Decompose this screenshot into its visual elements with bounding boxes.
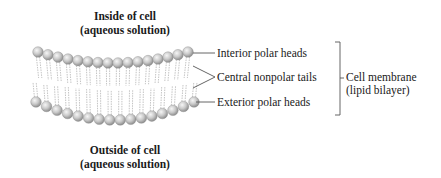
polar-head-icon xyxy=(113,58,124,69)
polar-head-icon xyxy=(147,111,158,122)
polar-head-icon xyxy=(153,54,164,65)
polar-head-icon xyxy=(73,111,84,122)
polar-head-icon xyxy=(143,55,154,66)
membrane-bracket xyxy=(335,42,340,115)
polar-head-icon xyxy=(136,113,147,124)
polar-head-icon xyxy=(53,52,64,63)
polar-head-icon xyxy=(31,97,42,108)
central-nonpolar-tails-label: Central nonpolar tails xyxy=(217,71,317,84)
polar-head-icon xyxy=(104,115,115,126)
polar-head-icon xyxy=(168,105,179,116)
polar-head-icon xyxy=(178,101,189,112)
interior-polar-heads-label: Interior polar heads xyxy=(217,47,307,60)
polar-head-icon xyxy=(163,52,174,63)
polar-head-icon xyxy=(43,49,54,60)
polar-head-icon xyxy=(126,114,137,125)
inside-cell-label: Inside of cell (aqueous solution) xyxy=(70,9,180,37)
inside-cell-title: Inside of cell xyxy=(70,9,180,23)
outside-cell-title: Outside of cell xyxy=(70,143,180,157)
polar-head-icon xyxy=(133,56,144,67)
polar-head-icon xyxy=(62,108,73,119)
central-tails-leader xyxy=(193,66,215,88)
polar-head-icon xyxy=(83,56,94,67)
cell-membrane-subtitle: (lipid bilayer) xyxy=(346,84,417,97)
polar-head-icon xyxy=(157,108,168,119)
outside-cell-subtitle: (aqueous solution) xyxy=(70,157,180,171)
polar-head-icon xyxy=(94,114,105,125)
exterior-polar-heads-label: Exterior polar heads xyxy=(217,96,310,109)
polar-head-icon xyxy=(83,113,94,124)
bilayer-group xyxy=(31,47,200,126)
cell-membrane-title: Cell membrane xyxy=(346,71,417,84)
polar-head-icon xyxy=(52,105,63,116)
inside-cell-subtitle: (aqueous solution) xyxy=(70,23,180,37)
polar-head-icon xyxy=(41,101,52,112)
exterior-polar-heads xyxy=(31,97,200,126)
cell-membrane-label: Cell membrane (lipid bilayer) xyxy=(346,71,417,97)
polar-head-icon xyxy=(103,58,114,69)
polar-head-icon xyxy=(123,57,134,68)
polar-head-icon xyxy=(63,54,74,65)
polar-head-icon xyxy=(73,55,84,66)
polar-head-icon xyxy=(93,57,104,68)
outside-cell-label: Outside of cell (aqueous solution) xyxy=(70,143,180,171)
polar-head-icon xyxy=(183,47,194,58)
polar-head-icon xyxy=(33,47,44,58)
polar-head-icon xyxy=(115,115,126,126)
polar-head-icon xyxy=(173,49,184,60)
